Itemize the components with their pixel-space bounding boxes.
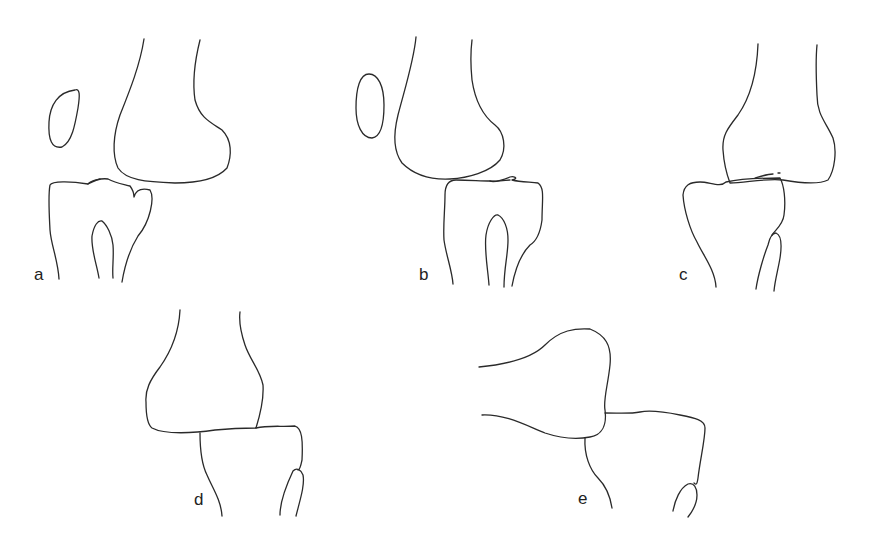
panel-c-meniscus-mark bbox=[755, 173, 780, 178]
panel-label-d: d bbox=[194, 491, 203, 508]
panel-b-femur bbox=[395, 37, 504, 179]
panel-b bbox=[356, 37, 543, 287]
panel-d-fibula bbox=[280, 469, 303, 516]
panel-c-fibula bbox=[756, 233, 781, 291]
knee-joint-figure: a b c d e bbox=[0, 0, 871, 550]
panel-label-b: b bbox=[419, 266, 428, 283]
panel-b-tibia bbox=[444, 177, 543, 286]
panel-a bbox=[49, 39, 230, 282]
panel-label-e: e bbox=[578, 490, 587, 507]
panel-d-femur bbox=[146, 310, 263, 433]
panel-a-tibia bbox=[49, 179, 152, 282]
panel-a-femur bbox=[114, 39, 230, 183]
panel-a-patella bbox=[49, 90, 79, 148]
panel-d-tibia bbox=[200, 426, 302, 516]
panel-e-fibula bbox=[673, 484, 697, 517]
panel-a-fibula bbox=[92, 221, 113, 278]
panel-label-a: a bbox=[34, 266, 43, 283]
panel-label-c: c bbox=[679, 266, 688, 283]
panel-e bbox=[479, 329, 705, 517]
panel-e-tibia bbox=[585, 411, 705, 508]
panel-c bbox=[683, 44, 835, 291]
panel-c-tibia bbox=[683, 178, 785, 287]
panel-c-femur bbox=[723, 44, 835, 183]
panel-e-femur bbox=[479, 329, 610, 439]
panel-b-fibula bbox=[485, 215, 508, 287]
figure-drawing bbox=[0, 0, 871, 550]
panel-b-patella bbox=[356, 74, 384, 138]
panel-d bbox=[146, 310, 304, 516]
